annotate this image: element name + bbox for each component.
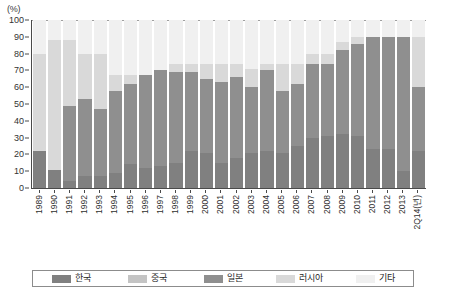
x-axis-tick: 1993 <box>92 190 107 246</box>
y-axis-tick-label: 50 <box>14 100 24 109</box>
bar-segment <box>169 20 182 64</box>
bar-segment <box>48 20 61 40</box>
x-axis-tick: 1990 <box>46 190 61 246</box>
bar-segment <box>124 20 137 75</box>
stacked-bar-chart: (%) 0102030405060708090100 1989199019911… <box>0 0 458 290</box>
x-axis-tick: 1989 <box>31 190 46 246</box>
x-axis-tick-label: 1990 <box>49 195 58 214</box>
y-axis-tick-label: 0 <box>19 184 24 193</box>
x-axis-tick-label: 1998 <box>170 195 179 214</box>
legend-color-swatch <box>52 275 71 283</box>
bar-stack <box>260 20 273 188</box>
x-axis-tick: 2004 <box>258 190 273 246</box>
legend-item[interactable]: 기타 <box>337 274 413 283</box>
bar-column[interactable] <box>290 20 305 188</box>
bar-column[interactable] <box>214 20 229 188</box>
bar-segment <box>200 79 213 153</box>
bar-column[interactable] <box>411 20 426 188</box>
bar-stack <box>321 20 334 188</box>
bar-segment <box>63 40 76 106</box>
bar-column[interactable] <box>77 20 92 188</box>
y-axis-tick-mark <box>25 120 29 121</box>
x-axis-tick: 2013 <box>395 190 410 246</box>
bar-segment <box>230 20 243 64</box>
bar-segment <box>139 20 152 75</box>
bar-column[interactable] <box>108 20 123 188</box>
bar-segment <box>366 20 379 37</box>
bar-stack <box>412 20 425 188</box>
x-axis-tick-label: 2013 <box>398 195 407 214</box>
bar-stack <box>382 20 395 188</box>
bar-segment <box>109 173 122 188</box>
x-axis-tick: 1992 <box>76 190 91 246</box>
bar-segment <box>291 64 304 84</box>
bar-segment <box>321 64 334 136</box>
x-axis-tick-label: 1992 <box>80 195 89 214</box>
bar-column[interactable] <box>47 20 62 188</box>
bar-segment <box>109 20 122 75</box>
bar-segment <box>306 64 319 138</box>
bar-column[interactable] <box>396 20 411 188</box>
bar-column[interactable] <box>229 20 244 188</box>
bar-column[interactable] <box>123 20 138 188</box>
bar-column[interactable] <box>184 20 199 188</box>
bar-segment <box>260 64 273 71</box>
legend-item[interactable]: 한국 <box>33 274 109 283</box>
legend-item[interactable]: 중국 <box>109 274 185 283</box>
bar-segment <box>412 37 425 87</box>
bar-column[interactable] <box>199 20 214 188</box>
x-axis-tick-mark <box>220 190 221 193</box>
bar-segment <box>382 20 395 37</box>
bar-column[interactable] <box>138 20 153 188</box>
bar-column[interactable] <box>62 20 77 188</box>
y-axis-tick-label: 60 <box>14 83 24 92</box>
bar-segment <box>397 37 410 171</box>
bar-column[interactable] <box>275 20 290 188</box>
legend-item[interactable]: 일본 <box>185 274 261 283</box>
x-axis-tick-label: 1996 <box>140 195 149 214</box>
bar-column[interactable] <box>32 20 47 188</box>
y-axis-tick-mark <box>25 171 29 172</box>
bar-segment <box>185 151 198 188</box>
bar-column[interactable] <box>350 20 365 188</box>
bar-segment <box>33 151 46 188</box>
plot-area <box>31 20 426 189</box>
bar-segment <box>321 54 334 64</box>
x-axis-tick-mark <box>387 190 388 193</box>
bar-column[interactable] <box>335 20 350 188</box>
x-axis-tick: 1999 <box>183 190 198 246</box>
x-axis-tick-mark <box>266 190 267 193</box>
bar-segment <box>276 64 289 91</box>
bar-segment <box>351 20 364 37</box>
bar-column[interactable] <box>153 20 168 188</box>
x-axis-tick-label: 2010 <box>352 195 361 214</box>
bar-column[interactable] <box>93 20 108 188</box>
x-axis-tick-mark <box>145 190 146 193</box>
bar-column[interactable] <box>168 20 183 188</box>
bar-column[interactable] <box>305 20 320 188</box>
legend-item[interactable]: 러시아 <box>261 274 337 283</box>
y-axis-tick-label: 90 <box>14 32 24 41</box>
bar-segment <box>306 20 319 54</box>
bar-segment <box>154 166 167 188</box>
x-axis-tick: 2002 <box>228 190 243 246</box>
bar-column[interactable] <box>244 20 259 188</box>
bar-stack <box>139 20 152 188</box>
bar-column[interactable] <box>365 20 380 188</box>
bar-column[interactable] <box>320 20 335 188</box>
bar-column[interactable] <box>259 20 274 188</box>
bar-stack <box>154 20 167 188</box>
x-axis-tick-mark <box>311 190 312 193</box>
x-axis-tick-mark <box>84 190 85 193</box>
bar-segment <box>366 149 379 188</box>
bar-segment <box>291 84 304 146</box>
bar-column[interactable] <box>381 20 396 188</box>
y-axis-unit-label: (%) <box>7 4 20 14</box>
bar-segment <box>336 42 349 50</box>
x-axis-tick-mark <box>114 190 115 193</box>
bar-stack <box>169 20 182 188</box>
x-axis-tick-mark <box>205 190 206 193</box>
x-axis-tick-label: 2007 <box>307 195 316 214</box>
bar-segment <box>382 149 395 188</box>
x-axis-tick: 2009 <box>334 190 349 246</box>
